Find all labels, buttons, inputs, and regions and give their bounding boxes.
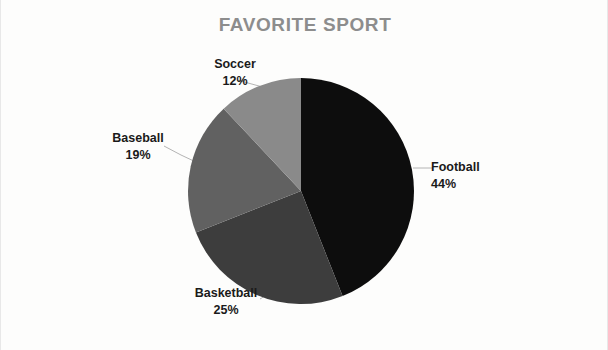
pie-slices xyxy=(188,78,414,304)
slice-label-football: Football 44% xyxy=(431,159,529,192)
slice-label-baseball-name: Baseball xyxy=(85,130,191,147)
slice-label-basketball-percent: 25% xyxy=(164,302,288,319)
slice-label-soccer: Soccer 12% xyxy=(187,56,283,89)
slice-label-football-name: Football xyxy=(431,159,529,176)
slice-label-football-percent: 44% xyxy=(431,176,529,193)
pie-chart-figure: FAVORITE SPORT Soccer 12% Baseball 19% xyxy=(0,0,608,350)
slice-label-soccer-percent: 12% xyxy=(187,73,283,90)
slice-label-baseball-percent: 19% xyxy=(85,147,191,164)
slice-label-soccer-name: Soccer xyxy=(187,56,283,73)
slice-label-basketball: Basketball 25% xyxy=(164,285,288,318)
slice-label-baseball: Baseball 19% xyxy=(85,130,191,163)
slice-label-basketball-name: Basketball xyxy=(164,285,288,302)
